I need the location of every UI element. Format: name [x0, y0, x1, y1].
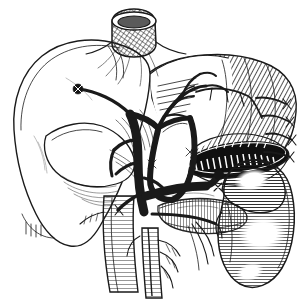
illustration-canvas [0, 0, 304, 306]
anatomical-illustration: Upper abdominal viscera, pen-and-ink ana… [0, 0, 304, 306]
inferior-vena-cava [103, 196, 138, 292]
kidney [216, 160, 294, 287]
esophagus-lumen [118, 16, 150, 28]
